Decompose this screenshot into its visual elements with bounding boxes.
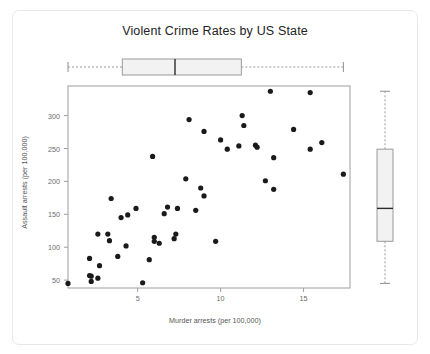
x-tick-label: 15 <box>292 294 316 303</box>
y-tick-label: 250 <box>34 145 60 154</box>
y-tick-label: 100 <box>34 243 60 252</box>
y-tick-label: 200 <box>34 177 60 186</box>
x-tick-label: 5 <box>126 294 150 303</box>
y-marginal-boxplot <box>377 91 393 283</box>
x-marginal-boxplot <box>68 59 343 75</box>
scatter-points <box>65 89 346 286</box>
x-tick-label: 10 <box>209 294 233 303</box>
plot-axes <box>64 86 350 292</box>
y-tick-label: 300 <box>34 112 60 121</box>
scatter-plot-figure: Violent Crime Rates by US State Murder a… <box>0 0 430 354</box>
y-tick-label: 150 <box>34 210 60 219</box>
y-tick-label: 50 <box>34 276 60 285</box>
